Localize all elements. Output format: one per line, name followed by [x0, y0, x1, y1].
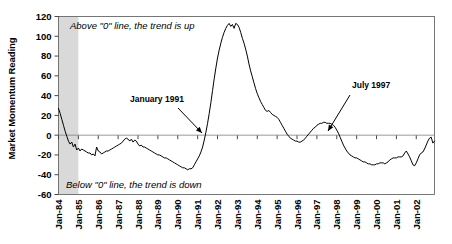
- x-tick-label: Jan-93: [232, 200, 243, 230]
- shaded-band-rect: [59, 17, 79, 195]
- y-tick-label: -20: [38, 149, 52, 160]
- y-tick-label: 100: [36, 31, 52, 42]
- above-zero-note: Above "0" line, the trend is up: [69, 20, 195, 31]
- axis-lines: [59, 17, 435, 195]
- x-tick-label: Jan-97: [311, 200, 322, 230]
- y-tick-label: 120: [36, 11, 52, 22]
- x-tick-label: Jan-92: [212, 200, 223, 230]
- data-series: [59, 23, 435, 169]
- x-tick-label: Jan-85: [73, 199, 84, 230]
- shaded-band: [59, 17, 79, 195]
- y-tick-label: 0: [46, 130, 51, 141]
- trend-notes: Above "0" line, the trend is upBelow "0"…: [66, 20, 202, 190]
- annotation-arrowhead: [328, 125, 333, 131]
- x-tick-label: Jan-87: [113, 200, 124, 230]
- y-tick-label: 80: [41, 50, 52, 61]
- x-tick-label: Jan-95: [272, 199, 283, 230]
- annotation-label: January 1991: [130, 94, 184, 104]
- x-tick-label: Jan-94: [252, 199, 263, 230]
- y-tick-label: -40: [38, 169, 52, 180]
- x-tick-label: Jan-98: [331, 200, 342, 230]
- x-tick-label: Jan-01: [391, 199, 402, 230]
- x-tick-label: Jan-99: [351, 200, 362, 230]
- y-tick-label: 40: [41, 90, 52, 101]
- y-axis-ticks: -60-40-20020406080100120: [36, 11, 59, 200]
- y-tick-label: 60: [41, 70, 52, 81]
- annotations: January 1991July 1997: [130, 80, 391, 133]
- plot-frame: [59, 17, 435, 195]
- x-tick-label: Jan-02: [411, 200, 422, 230]
- annotation-arrow-line: [328, 95, 350, 131]
- x-tick-label: Jan-00: [371, 200, 382, 230]
- x-tick-label: Jan-88: [133, 200, 144, 230]
- x-tick-label: Jan-89: [152, 200, 163, 230]
- momentum-line: [59, 23, 435, 169]
- annotation-label: July 1997: [352, 80, 391, 90]
- x-tick-label: Jan-96: [292, 200, 303, 230]
- below-zero-note: Below "0" line, the trend is down: [66, 179, 202, 190]
- x-tick-label: Jan-86: [93, 200, 104, 230]
- market-momentum-chart: Market Momentum Reading -60-40-200204060…: [0, 0, 452, 244]
- y-tick-label: 20: [41, 110, 52, 121]
- y-tick-label: -60: [38, 189, 52, 200]
- plot-area: -60-40-20020406080100120 Jan-84Jan-85Jan…: [0, 0, 452, 244]
- x-tick-label: Jan-91: [192, 199, 203, 230]
- x-tick-label: Jan-84: [53, 199, 64, 230]
- x-tick-label: Jan-90: [172, 200, 183, 230]
